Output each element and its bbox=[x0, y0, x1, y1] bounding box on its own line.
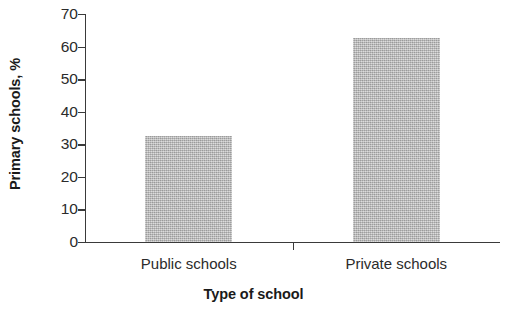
y-axis-tick-mark bbox=[78, 47, 86, 48]
y-axis-tick-mark bbox=[78, 177, 86, 178]
y-axis-tick-labels: 010203040506070 bbox=[38, 0, 78, 309]
bar bbox=[145, 136, 232, 242]
x-axis-tick-mark bbox=[293, 242, 294, 250]
y-axis-title: Primary schools, % bbox=[0, 0, 30, 248]
y-axis-tick-label: 20 bbox=[40, 169, 78, 185]
x-axis-category-label: Public schools bbox=[85, 255, 293, 272]
y-axis-tick-mark bbox=[78, 209, 86, 210]
y-axis-tick-mark bbox=[78, 242, 86, 243]
y-axis-tick-label: 30 bbox=[40, 136, 78, 152]
y-axis-tick-mark bbox=[78, 112, 86, 113]
y-axis-tick-mark bbox=[78, 79, 86, 80]
y-axis-tick-label: 0 bbox=[40, 234, 78, 250]
bar bbox=[353, 38, 440, 242]
x-axis-title: Type of school bbox=[0, 286, 507, 302]
y-axis-tick-label: 40 bbox=[40, 104, 78, 120]
x-axis-line bbox=[82, 242, 500, 243]
y-axis-title-text: Primary schools, % bbox=[7, 58, 23, 190]
y-axis-tick-mark bbox=[78, 14, 86, 15]
y-axis-tick-label: 50 bbox=[40, 71, 78, 87]
x-axis-category-label: Private schools bbox=[293, 255, 501, 272]
y-axis-tick-label: 60 bbox=[40, 39, 78, 55]
y-axis-tick-label: 10 bbox=[40, 201, 78, 217]
y-axis-tick-label: 70 bbox=[40, 6, 78, 22]
bar-chart-figure: Primary schools, % 010203040506070 Publi… bbox=[0, 0, 507, 309]
y-axis-tick-mark bbox=[78, 144, 86, 145]
